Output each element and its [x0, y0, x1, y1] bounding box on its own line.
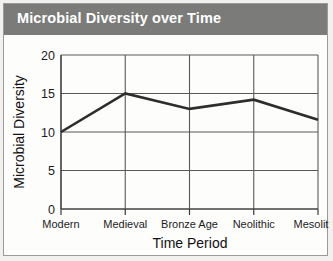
y-tick-label: 15 [41, 87, 55, 101]
chart-card: Microbial Diversity over Time 05101520 M… [3, 3, 328, 256]
x-axis-title: Time Period [153, 235, 228, 251]
page-title: Microbial Diversity over Time [17, 10, 221, 26]
chart-title-bar: Microbial Diversity over Time [4, 4, 327, 35]
x-tick-labels: ModernMedievalBronze AgeNeolithicMesolit… [42, 218, 329, 230]
y-tick-labels: 05101520 [41, 49, 55, 217]
x-tick-label: Neolithic [233, 218, 276, 230]
line-chart: 05101520 ModernMedievalBronze AgeNeolith… [4, 35, 329, 257]
y-axis-title: Microbial Diversity [11, 75, 27, 189]
x-tick-label: Mesolithic [294, 218, 329, 230]
y-tick-label: 20 [41, 49, 55, 63]
x-tick-label: Bronze Age [161, 218, 218, 230]
x-tick-label: Medieval [103, 218, 147, 230]
plot-area: 05101520 ModernMedievalBronze AgeNeolith… [4, 35, 327, 257]
y-tick-label: 5 [48, 164, 55, 178]
y-tick-label: 10 [41, 126, 55, 140]
y-tick-label: 0 [48, 203, 55, 217]
x-tick-label: Modern [42, 218, 79, 230]
x-tick-marks [61, 209, 318, 215]
